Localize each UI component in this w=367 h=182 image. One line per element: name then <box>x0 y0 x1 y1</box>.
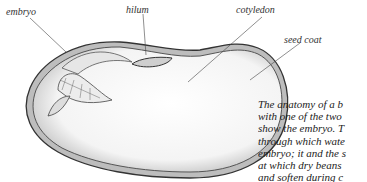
label-cotyledon: cotyledon <box>236 4 275 15</box>
caption-line: embryo; it and the s <box>258 147 367 159</box>
caption-text: The anatomy of a b with one of the two s… <box>258 98 367 182</box>
caption-line: The anatomy of a b <box>258 98 367 110</box>
bean-diagram: embryo hilum cotyledon seed coat The ana… <box>0 0 367 182</box>
label-hilum: hilum <box>126 4 149 15</box>
label-embryo: embryo <box>6 6 36 17</box>
label-seed-coat: seed coat <box>284 34 322 45</box>
caption-line: with one of the two <box>258 110 367 122</box>
caption-line: show the embryo. T <box>258 122 367 134</box>
caption-line: at which dry beans <box>258 159 367 171</box>
caption-line: through which wate <box>258 135 367 147</box>
caption-line: and soften during c <box>258 171 367 182</box>
